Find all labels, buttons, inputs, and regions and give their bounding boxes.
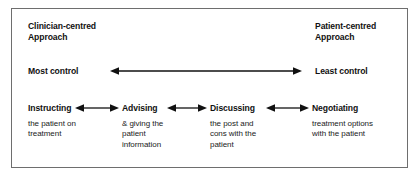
stage-connector-arrow-discussing-negotiating-icon — [266, 101, 309, 115]
patient-centred-approach-title: Patient-centred Approach — [315, 21, 376, 43]
most-control-label: Most control — [28, 66, 78, 76]
clinician-centred-approach-title: Clinician-centred Approach — [28, 21, 96, 43]
diagram-frame: Clinician-centred Approach Patient-centr… — [11, 8, 408, 168]
stage-description-instructing: the patient on treatment — [28, 119, 76, 140]
stage-description-discussing: the post and cons with the patient — [210, 119, 256, 150]
stage-description-negotiating: treatment options with the patient — [312, 119, 373, 140]
stage-connector-arrow-advising-discussing-icon — [167, 101, 207, 115]
stage-description-advising: & giving the patient information — [122, 119, 163, 150]
stage-label-advising: Advising — [122, 103, 158, 113]
stage-label-instructing: Instructing — [28, 103, 71, 113]
stage-label-negotiating: Negotiating — [312, 103, 358, 113]
stage-label-discussing: Discussing — [210, 103, 255, 113]
least-control-label: Least control — [315, 66, 368, 76]
stage-connector-arrow-instructing-advising-icon — [75, 101, 119, 115]
control-continuum-double-arrow-icon — [110, 64, 302, 78]
